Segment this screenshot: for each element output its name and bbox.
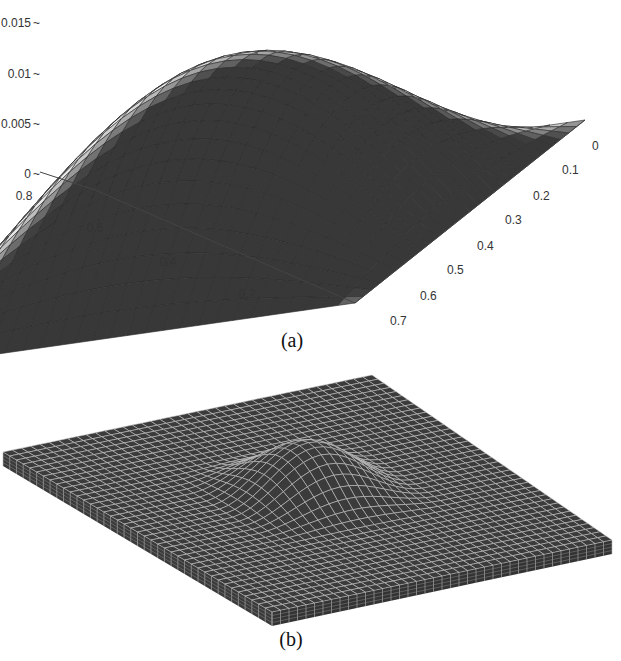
y-tick-label: 0.5 <box>447 263 464 277</box>
y-tick-label: 0.2 <box>533 189 550 203</box>
x-tick-label: 0.8 <box>16 189 33 203</box>
z-tick-label: 0.01 <box>8 67 32 81</box>
z-tick-mark: ~ <box>33 67 40 81</box>
y-tick-label: 0.3 <box>505 213 522 227</box>
y-tick-label: 0 <box>592 139 599 153</box>
z-tick-mark: ~ <box>33 16 40 30</box>
z-tick-mark: ~ <box>33 117 40 131</box>
y-tick-label: 0.7 <box>390 314 407 328</box>
figure: 0~0.005~0.01~0.015~0.20.40.60.800.10.20.… <box>0 0 621 661</box>
y-tick-label: 0.4 <box>477 239 494 253</box>
x-tick-label: 0.6 <box>87 221 104 235</box>
x-tick-label: 0.2 <box>239 287 256 301</box>
caption-a: (a) <box>281 329 303 352</box>
y-tick-label: 0.1 <box>562 163 579 177</box>
caption-b: (b) <box>279 628 302 651</box>
y-tick-label: 0.6 <box>420 289 437 303</box>
z-tick-mark: ~ <box>33 167 40 181</box>
x-tick-label: 0.4 <box>160 255 177 269</box>
surface-plot-a <box>0 50 585 373</box>
z-tick-label: 0 <box>24 167 31 181</box>
z-tick-label: 0.005 <box>1 117 31 131</box>
z-tick-label: 0.015 <box>1 16 31 30</box>
mesh-plot-b <box>3 375 612 626</box>
